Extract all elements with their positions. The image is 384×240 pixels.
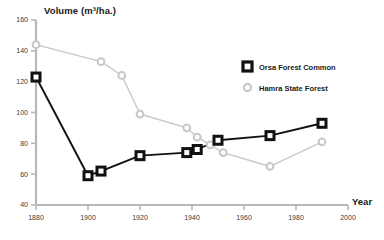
chart-container: Volume (m³/ha.) Year 160 140 120 100 80 … bbox=[0, 0, 384, 240]
legend-markers bbox=[243, 62, 252, 91]
series-layer bbox=[32, 41, 326, 179]
axis-lines bbox=[31, 20, 348, 210]
plot-area bbox=[0, 0, 384, 240]
